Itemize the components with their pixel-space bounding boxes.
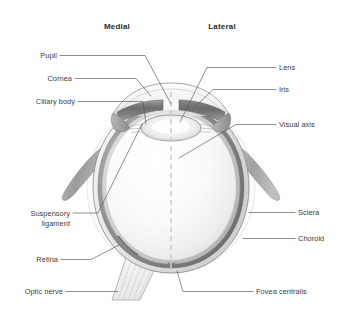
leader-retina — [61, 245, 119, 260]
leader-fovea-centralis — [177, 271, 253, 292]
label-visual-axis: Visual axis — [279, 120, 315, 129]
label-iris: Iris — [279, 85, 289, 94]
heading-medial: Medial — [104, 22, 130, 31]
label-sclera: Sclera — [298, 208, 320, 217]
label-choroid: Choroid — [298, 234, 324, 243]
label-suspensory-ligament-line1: Suspensory — [30, 209, 70, 218]
label-fovea-centralis: Fovea centralis — [256, 287, 307, 296]
label-ciliary-body: Ciliary body — [36, 97, 75, 106]
label-optic-nerve: Optic nerve — [25, 287, 63, 296]
heading-lateral: Lateral — [208, 22, 236, 31]
orientation-headings: Medial Lateral — [104, 22, 236, 31]
eyeball-group — [62, 83, 280, 300]
label-lens: Lens — [279, 63, 295, 72]
eye-anatomy-figure: Medial Lateral Pupil Cornea Ciliary body… — [0, 0, 341, 311]
label-cornea: Cornea — [47, 74, 72, 83]
label-pupil: Pupil — [40, 51, 57, 60]
label-retina: Retina — [36, 255, 59, 264]
label-suspensory-ligament-line2: ligament — [42, 219, 70, 228]
eye-diagram-svg: Medial Lateral Pupil Cornea Ciliary body… — [0, 0, 341, 311]
